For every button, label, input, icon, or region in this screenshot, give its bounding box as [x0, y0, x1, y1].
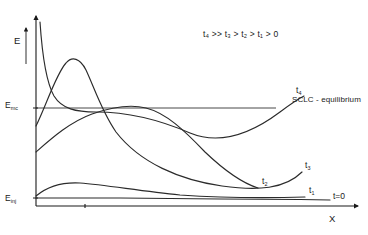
y-tick-label-einj: Einj [5, 194, 16, 204]
time-order-annotation: t₄ >> t₃ > t₂ > t₁ > 0 [203, 30, 278, 39]
curve-label-t0: t=0 [333, 192, 345, 201]
einj-subscript: inj [11, 198, 16, 204]
curve-t0 [36, 198, 330, 200]
t1-subscript: 1 [311, 190, 314, 196]
sclc-equilibrium-label: SCLC - equilibrium [292, 96, 361, 104]
x-axis-title: X [329, 214, 335, 224]
curve-label-t2: t2 [262, 177, 267, 187]
y-tick-label-emc: Emc [5, 101, 18, 111]
plot-canvas [0, 0, 368, 235]
curve-label-t3: t3 [305, 161, 310, 171]
t2-subscript: 2 [264, 181, 267, 187]
curve-label-t1: t1 [309, 186, 314, 196]
y-axis-title: E [14, 36, 20, 46]
electric-field-transient-figure: E X Emc Einj t₄ >> t₃ > t₂ > t₁ > 0 t4 S… [0, 0, 368, 235]
t3-subscript: 3 [307, 165, 310, 171]
emc-subscript: mc [11, 105, 18, 111]
